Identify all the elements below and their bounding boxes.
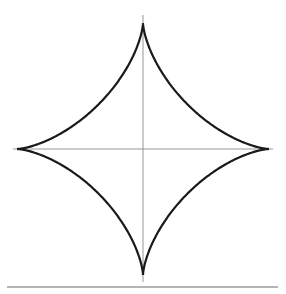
astroid-diagram <box>0 0 286 294</box>
